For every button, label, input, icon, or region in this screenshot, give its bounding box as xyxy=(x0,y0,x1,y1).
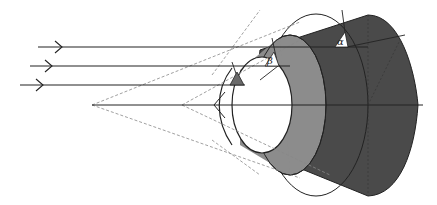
front-arc xyxy=(219,68,232,145)
alpha-label: α xyxy=(337,36,344,47)
optics-diagram: α β xyxy=(0,0,437,205)
beta-label: β xyxy=(266,55,273,66)
